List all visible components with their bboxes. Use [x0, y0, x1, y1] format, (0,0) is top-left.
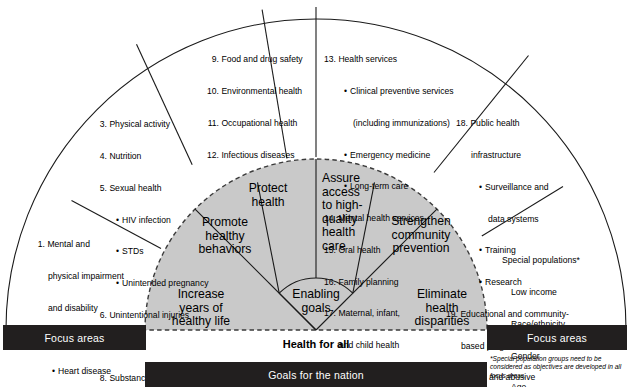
diagram-canvas: 1. Mental and physical impairment and di… — [0, 0, 630, 387]
sector-label-strengthen-community: Strengthencommunityprevention — [366, 215, 476, 256]
right-focus-areas-bar: Focus areas — [487, 325, 627, 350]
sector-label-increase-years: Increaseyears ofhealthy life — [149, 288, 253, 329]
left-focus-areas-bar: Focus areas — [3, 325, 146, 350]
sector-label-protect-health: Protecthealth — [228, 182, 308, 209]
footnote: *Special population groups need to be co… — [490, 355, 624, 380]
enabling-goals-label: Enablinggoals — [266, 288, 366, 315]
sector-label-promote-healthy: Promotehealthybehaviors — [176, 216, 274, 257]
special-populations-heading: Special populations* — [502, 255, 597, 266]
health-for-all-label: Health for all — [216, 338, 416, 350]
sector-label-eliminate-disparities: Eliminatehealthdisparities — [392, 288, 492, 329]
goals-for-nation-bar: Goals for the nation — [145, 362, 487, 387]
sector-9-12-text: 9. Food and drug safety 10. Environmenta… — [205, 33, 303, 181]
